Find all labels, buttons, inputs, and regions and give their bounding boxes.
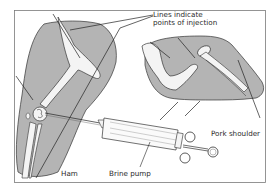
ham-knee-joint <box>33 107 47 121</box>
syringe-plunger-ring <box>208 147 218 157</box>
ham-label: Ham <box>61 170 78 178</box>
pork-shoulder-label: Pork shoulder <box>211 130 260 138</box>
syringe-finger-ring-bottom <box>180 153 190 163</box>
injection-label-line2: points of injection <box>153 19 217 27</box>
brine-pump-label: Brine pump <box>109 170 151 178</box>
injection-points-label: Lines indicate points of injection <box>153 11 217 27</box>
syringe-finger-ring-top <box>185 132 195 142</box>
illustration <box>0 0 280 192</box>
